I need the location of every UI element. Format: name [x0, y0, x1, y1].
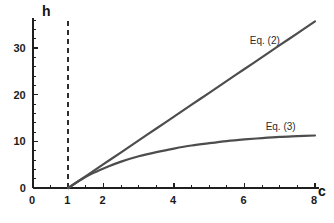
x-axis-tick-label: 4 [170, 195, 176, 206]
plot-canvas [0, 0, 334, 223]
series-line-1 [68, 21, 315, 188]
y-axis-tick-label: 20 [13, 90, 25, 101]
x-axis-tick-label: 1 [64, 195, 70, 206]
y-axis-tick-label: 30 [13, 43, 25, 54]
y-axis-tick-label: 10 [13, 136, 25, 147]
x-axis-tick-label: 8 [311, 195, 317, 206]
curve-annotation-1: Eq. (2) [250, 36, 280, 46]
x-axis-tick-label: 0 [29, 195, 35, 206]
x-axis-title: c [318, 184, 326, 198]
x-axis-tick-label: 6 [241, 195, 247, 206]
x-axis-tick-label: 2 [100, 195, 106, 206]
chart-figure: h c 0124680102030 Eq. (2)Eq. (3) [0, 0, 334, 223]
y-axis-tick-label: 0 [20, 183, 26, 194]
curve-annotation-2: Eq. (3) [266, 122, 296, 132]
data-series-group [68, 21, 315, 188]
y-axis-title: h [42, 4, 51, 18]
